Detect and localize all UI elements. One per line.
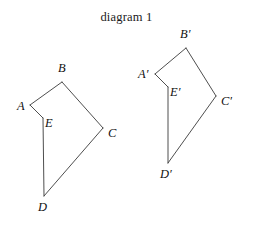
vertex-label-B: B: [58, 62, 66, 75]
vertex-label-C: C: [108, 127, 116, 140]
edge-Cp-Dp: [168, 96, 216, 163]
edge-Bp-Cp: [186, 48, 216, 96]
edge-D-E: [43, 118, 44, 196]
edge-Ap-Bp: [155, 48, 186, 74]
edge-A-B: [30, 82, 62, 105]
edge-C-D: [44, 128, 103, 196]
vertex-label-Dp: D′: [160, 168, 172, 181]
vertex-label-D: D: [38, 201, 47, 214]
vertex-label-E: E: [45, 117, 53, 130]
vertex-label-Ep: E′: [170, 86, 180, 99]
edge-Ep-Ap: [155, 74, 168, 87]
vertex-label-Cp: C′: [221, 95, 232, 108]
edge-B-C: [62, 82, 103, 128]
vertex-label-Ap: A′: [138, 68, 148, 81]
geometry-figures: [0, 0, 253, 231]
diagram-canvas: diagram 1 ABCDEA′B′C′D′E′: [0, 0, 253, 231]
vertex-label-A: A: [17, 100, 25, 113]
vertex-label-Bp: B′: [180, 28, 190, 41]
edge-E-A: [30, 105, 43, 118]
